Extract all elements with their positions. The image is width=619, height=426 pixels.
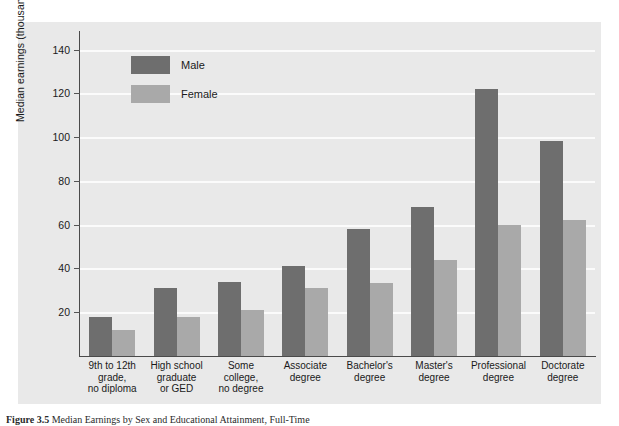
- x-axis-label-line: Associate: [273, 360, 337, 372]
- x-axis-label-line: Professional: [466, 360, 530, 372]
- bar-group: [540, 32, 586, 356]
- x-axis-category-labels: 9th to 12thgrade,no diplomaHigh schoolgr…: [80, 360, 595, 395]
- y-axis-tick-label: 40: [40, 263, 70, 274]
- legend-swatch-female: [131, 85, 170, 103]
- y-axis-tick-label: 140: [40, 45, 70, 56]
- bar-female: [370, 283, 393, 356]
- legend-label: Female: [181, 88, 218, 100]
- bar-group: [347, 32, 393, 356]
- chart-panel: Median earnings (thousands of dollars) 2…: [18, 22, 601, 404]
- bar-male: [540, 141, 563, 356]
- bar-male: [89, 317, 112, 356]
- x-axis-label: High schoolgraduateor GED: [145, 360, 209, 395]
- x-axis-label-line: Doctorate: [531, 360, 595, 372]
- y-axis-tick-label: 120: [40, 88, 70, 99]
- bar-female: [434, 260, 457, 356]
- figure-number: Figure 3.5: [6, 414, 49, 425]
- chart-legend: MaleFemale: [131, 56, 218, 114]
- bar-male: [411, 207, 434, 356]
- legend-item: Male: [131, 56, 218, 74]
- x-axis-label-line: degree: [531, 372, 595, 384]
- bar-male: [218, 282, 241, 356]
- legend-label: Male: [181, 59, 205, 71]
- legend-swatch-male: [131, 56, 170, 74]
- x-axis-label-line: college,: [209, 372, 273, 384]
- x-axis-label: Master'sdegree: [402, 360, 466, 395]
- x-axis-label-line: degree: [402, 372, 466, 384]
- figure-container: Median earnings (thousands of dollars) 2…: [0, 0, 619, 426]
- x-axis-label: Doctoratedegree: [531, 360, 595, 395]
- x-axis-label-line: no degree: [209, 383, 273, 395]
- bar-group: [282, 32, 328, 356]
- x-axis-label-line: degree: [273, 372, 337, 384]
- y-axis-tick-label: 20: [40, 307, 70, 318]
- bar-male: [475, 89, 498, 356]
- y-axis-tick-label: 80: [40, 176, 70, 187]
- bar-female: [241, 310, 264, 356]
- bar-group: [475, 32, 521, 356]
- x-axis-label: 9th to 12thgrade,no diploma: [80, 360, 144, 395]
- bar-male: [347, 229, 370, 356]
- x-axis-label: Professionaldegree: [466, 360, 530, 395]
- x-axis-label: Associatedegree: [273, 360, 337, 395]
- x-axis-label-line: Master's: [402, 360, 466, 372]
- y-axis-tick-label: 100: [40, 132, 70, 143]
- x-axis-label-line: or GED: [145, 383, 209, 395]
- bar-group: [218, 32, 264, 356]
- bar-group: [411, 32, 457, 356]
- x-axis-label-line: Bachelor's: [338, 360, 402, 372]
- x-axis-label-line: degree: [466, 372, 530, 384]
- x-axis-label-line: no diploma: [80, 383, 144, 395]
- x-axis-label-line: degree: [338, 372, 402, 384]
- bar-female: [177, 317, 200, 356]
- y-axis-title: Median earnings (thousands of dollars): [14, 0, 26, 122]
- x-axis-label: Somecollege,no degree: [209, 360, 273, 395]
- x-axis-label: Bachelor'sdegree: [338, 360, 402, 395]
- bar-male: [282, 266, 305, 356]
- figure-caption: Figure 3.5 Median Earnings by Sex and Ed…: [6, 414, 606, 425]
- y-axis-tick-label: 60: [40, 220, 70, 231]
- x-axis-label-line: High school: [145, 360, 209, 372]
- bar-male: [154, 288, 177, 356]
- bar-female: [563, 220, 586, 356]
- bar-female: [112, 330, 135, 356]
- bar-group: [89, 32, 135, 356]
- legend-item: Female: [131, 85, 218, 103]
- figure-caption-text: Median Earnings by Sex and Educational A…: [52, 414, 310, 425]
- x-axis-label-line: grade,: [80, 372, 144, 384]
- x-axis-label-line: graduate: [145, 372, 209, 384]
- x-axis-label-line: Some: [209, 360, 273, 372]
- bar-female: [498, 225, 521, 356]
- bar-female: [305, 288, 328, 356]
- x-axis-label-line: 9th to 12th: [80, 360, 144, 372]
